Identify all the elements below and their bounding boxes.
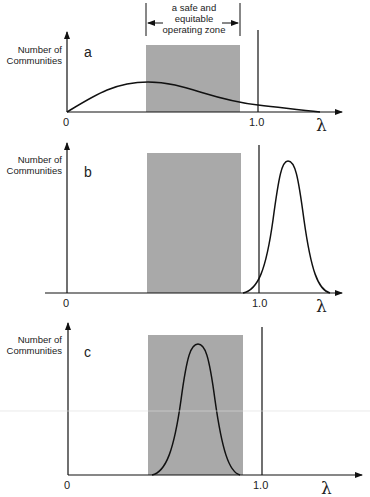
x-tick-zero: 0: [63, 297, 69, 309]
y-label-line: Communities: [2, 55, 62, 66]
diagram-canvas: [0, 0, 370, 497]
distribution-curve: [243, 161, 330, 293]
zone-label: a safe and equitable operating zone: [150, 2, 238, 35]
y-label-line: Number of: [2, 334, 62, 345]
y-axis-label: Number of Communities: [2, 44, 62, 66]
safe-zone-shade: [148, 335, 243, 475]
zone-label-line: a safe and: [150, 2, 238, 13]
y-label-line: Number of: [2, 154, 62, 165]
y-label-line: Communities: [2, 165, 62, 176]
panel-a: [67, 30, 342, 112]
x-tick-one: 1.0: [253, 479, 268, 491]
lambda-symbol: λ: [316, 296, 327, 316]
safe-zone-shade: [146, 45, 240, 112]
lambda-symbol: λ: [321, 478, 332, 497]
x-tick-zero: 0: [64, 479, 70, 491]
panel-label: a: [84, 44, 92, 60]
safe-zone-shade: [147, 153, 241, 293]
zone-label-line: equitable: [150, 13, 238, 24]
y-label-line: Communities: [2, 345, 62, 356]
y-label-line: Number of: [2, 44, 62, 55]
panel-c: [68, 323, 362, 475]
y-axis-label: Number of Communities: [2, 334, 62, 356]
lambda-symbol: λ: [316, 115, 327, 135]
y-axis-label: Number of Communities: [2, 154, 62, 176]
x-tick-zero: 0: [63, 116, 69, 128]
x-tick-one: 1.0: [249, 116, 264, 128]
zone-label-line: operating zone: [150, 24, 238, 35]
panel-label: b: [84, 164, 92, 180]
panel-label: c: [84, 344, 91, 360]
x-tick-one: 1.0: [252, 297, 267, 309]
